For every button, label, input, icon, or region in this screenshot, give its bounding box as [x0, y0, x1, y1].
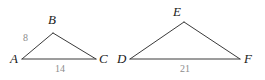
vertex-label-e: E	[173, 5, 181, 18]
triangle-abc-shape	[22, 33, 96, 59]
side-label-df: 21	[180, 64, 190, 74]
geometry-figure: A B C 8 14 D E F 21	[0, 0, 265, 80]
vertex-label-d: D	[117, 52, 126, 65]
vertex-label-a: A	[10, 52, 18, 65]
side-label-ac: 14	[55, 64, 65, 74]
side-label-ab: 8	[23, 33, 28, 43]
segment-bc	[53, 33, 96, 59]
triangle-def-shape	[130, 22, 240, 59]
vertex-label-c: C	[99, 52, 108, 65]
vertex-label-f: F	[244, 52, 252, 65]
triangles-svg	[0, 0, 265, 80]
segment-ef	[184, 22, 240, 59]
vertex-label-b: B	[48, 13, 56, 26]
segment-de	[130, 22, 184, 59]
